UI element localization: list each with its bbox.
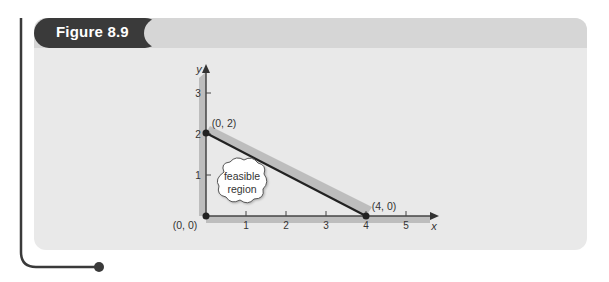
y-tick-label-2: 2 <box>195 129 201 140</box>
x-tick-label-4: 4 <box>363 220 369 231</box>
x-axis-arrow-icon <box>430 212 439 220</box>
y-axis-label: y <box>195 63 203 75</box>
point-x-intercept <box>363 213 370 220</box>
point-y-intercept <box>203 130 210 137</box>
x-tick-label-5: 5 <box>403 220 409 231</box>
x-tick-label-2: 2 <box>283 220 289 231</box>
point-origin-label: (0, 0) <box>173 219 198 231</box>
feasible-region-plot: 1 2 3 4 5 1 2 3 x y (0, 0) (0, 2) (4, 0)… <box>0 0 609 282</box>
x-tick-label-1: 1 <box>243 220 249 231</box>
x-tick-label-3: 3 <box>323 220 329 231</box>
point-x-intercept-label: (4, 0) <box>372 200 397 212</box>
y-axis-arrow-icon <box>202 64 210 73</box>
point-y-intercept-label: (0, 2) <box>212 117 237 129</box>
feasible-region-label-line2: region <box>227 183 256 195</box>
feasible-region-label-line1: feasible <box>224 170 260 182</box>
y-tick-label-1: 1 <box>195 170 201 181</box>
feasible-region-cloud: feasible region <box>217 158 266 203</box>
y-tick-label-3: 3 <box>195 88 201 99</box>
x-axis-label: x <box>430 220 437 232</box>
point-origin <box>203 213 210 220</box>
x-axis-shading <box>206 216 430 223</box>
